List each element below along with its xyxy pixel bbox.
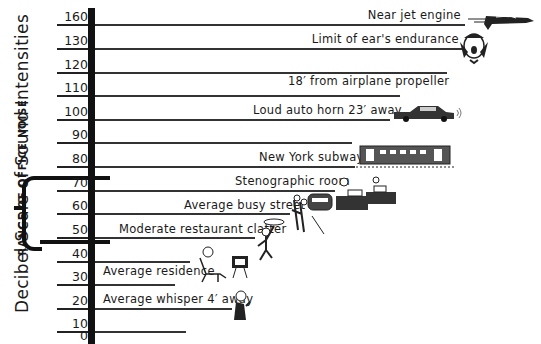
man-in-chair-tv-icon (196, 244, 252, 284)
tick-underline (57, 24, 88, 26)
tick-underline (57, 237, 88, 239)
tick-underline (57, 48, 88, 50)
office-noise-bracket (22, 176, 42, 251)
subway-car-icon (356, 143, 456, 171)
caption-ear-limit: Limit of ear's endurance (312, 32, 459, 46)
tick-40: 40 (58, 247, 88, 261)
level-line-100 (95, 119, 390, 121)
street-crowd-bus-icon (288, 190, 336, 238)
tick-underline (57, 95, 88, 97)
level-line-90 (95, 142, 352, 144)
tick-20: 20 (58, 294, 88, 308)
tick-underline (57, 284, 88, 286)
caption-jet-engine: Near jet engine (368, 8, 461, 22)
tick-underline (57, 190, 88, 192)
tick-30: 30 (58, 270, 88, 284)
bracket-point (14, 206, 24, 210)
level-line-50 (95, 237, 255, 239)
tick-90: 90 (58, 128, 88, 142)
tick-underline (57, 72, 88, 74)
tick-160: 160 (58, 10, 88, 24)
tick-underline (57, 308, 88, 310)
tick-underline (57, 142, 88, 144)
level-line-30 (95, 284, 175, 286)
tick-120: 120 (58, 58, 88, 72)
level-line-130 (95, 48, 462, 50)
level-line-80 (95, 166, 355, 168)
tick-0: 0 (58, 329, 88, 343)
tick-60: 60 (58, 199, 88, 213)
level-line-10 (95, 331, 186, 333)
tick-80: 80 (58, 152, 88, 166)
level-line-60 (95, 213, 290, 215)
tick-70: 70 (58, 176, 88, 190)
whispering-woman-icon (232, 288, 254, 324)
caption-propeller: 18′ from airplane propeller (288, 74, 449, 88)
caption-auto-horn: Loud auto horn 23′ away (253, 103, 402, 117)
bracket-bottom-bar (40, 240, 110, 244)
caption-subway: New York subway (259, 150, 364, 164)
level-line-110 (95, 95, 400, 97)
tick-50: 50 (58, 223, 88, 237)
level-line-20 (95, 308, 232, 310)
tick-underline (57, 166, 88, 168)
tick-130: 130 (58, 34, 88, 48)
tick-100: 100 (58, 105, 88, 119)
car-honking-icon (392, 104, 464, 124)
decibel-axis (88, 8, 95, 344)
tick-underline (57, 213, 88, 215)
caption-whisper: Average whisper 4′ away (103, 292, 253, 306)
tick-underline (57, 261, 88, 263)
level-line-160 (95, 24, 465, 26)
tick-110: 110 (58, 81, 88, 95)
tick-underline (57, 119, 88, 121)
waiter-icon (252, 216, 286, 266)
level-line-40 (95, 261, 190, 263)
typists-icon (334, 174, 400, 214)
screaming-face-icon (456, 28, 492, 70)
caption-stenographic-room: Stenographic room (235, 174, 350, 188)
